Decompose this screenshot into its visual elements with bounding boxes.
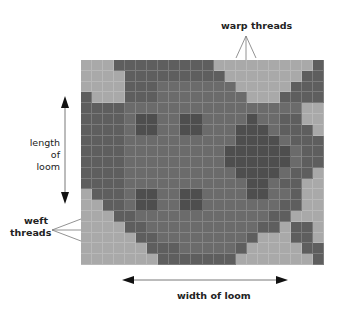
warp-threads-label: warp threads <box>221 20 292 32</box>
weft-threads-label: weft threads <box>10 215 48 239</box>
length-of-loom-label: length of loom <box>20 137 60 173</box>
length-label-line2: loom <box>20 161 60 173</box>
length-label-line1: length of <box>20 137 60 161</box>
weft-label-line1: weft <box>10 215 48 227</box>
weft-label-line2: threads <box>10 227 48 239</box>
width-of-loom-label: width of loom <box>177 290 251 302</box>
